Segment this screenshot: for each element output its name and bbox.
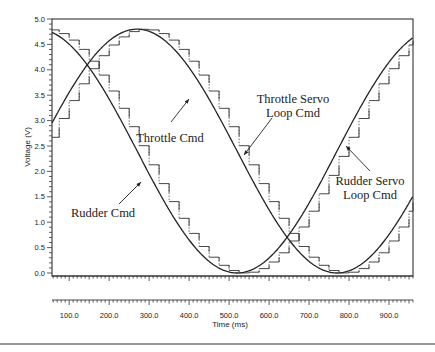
y-axis-title: Voltage (V) [23,127,32,167]
x-axis-title: Time (ms) [212,320,248,329]
x-axis-inner [52,276,413,281]
y-tick-label: 0.5 [35,243,45,252]
plot-area [52,19,413,276]
rudder-servo-label: Rudder ServoLoop Cmd [335,174,404,202]
throttle-servo-dotted [59,29,409,273]
x-tick-label: 500.0 [220,311,239,320]
y-tick-label: 3.0 [35,116,45,125]
y-tick-label: 5.0 [35,15,45,24]
y-tick-label: 4.5 [35,40,45,49]
rudder-servo-label-text: Loop Cmd [343,188,398,202]
y-tick-label: 1.0 [35,218,45,227]
x-tick-label: 900.0 [380,311,399,320]
rudder-cmd-label: Rudder Cmd [71,206,136,220]
throttle-servo-stairs [52,29,413,273]
y-tick-label: 2.0 [35,167,45,176]
throttle-servo-arrow [244,118,272,155]
x-tick-label: 600.0 [260,311,279,320]
throttle-servo-label: Throttle ServoLoop Cmd [257,92,330,120]
annotations: Throttle CmdThrottle ServoLoop CmdRudder… [71,92,405,220]
rudder-servo-arrow [346,146,370,171]
throttle-cmd-label: Throttle Cmd [136,131,204,145]
rudder-servo-stairs [52,30,413,273]
x-axis: 100.0200.0300.0400.0500.0600.0700.0800.0… [52,300,413,320]
x-tick-label: 400.0 [180,311,199,320]
rudder-cmd-line [52,32,413,273]
y-tick-label: 4.0 [35,65,45,74]
plot-frame [52,19,413,276]
y-tick-label: 1.5 [35,192,45,201]
x-tick-label: 300.0 [140,311,159,320]
x-tick-label: 100.0 [60,311,79,320]
rudder-servo-dotted [59,30,409,273]
x-tick-label: 200.0 [100,311,119,320]
y-tick-label: 3.5 [35,91,45,100]
x-tick-label: 800.0 [340,311,359,320]
servo-response-chart: 0.00.51.01.52.02.53.03.54.04.55.0 100.02… [0,0,435,352]
rudder-cmd-label-text: Rudder Cmd [71,206,136,220]
rudder-cmd-arrow [119,182,141,204]
y-tick-label: 2.5 [35,142,45,151]
throttle-cmd-label-text: Throttle Cmd [136,131,204,145]
y-axis: 0.00.51.01.52.02.53.03.54.04.55.0 [35,15,52,278]
rudder-servo-label-text: Rudder Servo [335,174,404,188]
y-tick-label: 0.0 [35,269,45,278]
series-layer [52,29,413,273]
throttle-cmd-line [52,29,413,273]
throttle-servo-label-text: Throttle Servo [257,92,330,106]
throttle-servo-label-text: Loop Cmd [266,106,321,120]
x-tick-label: 700.0 [300,311,319,320]
